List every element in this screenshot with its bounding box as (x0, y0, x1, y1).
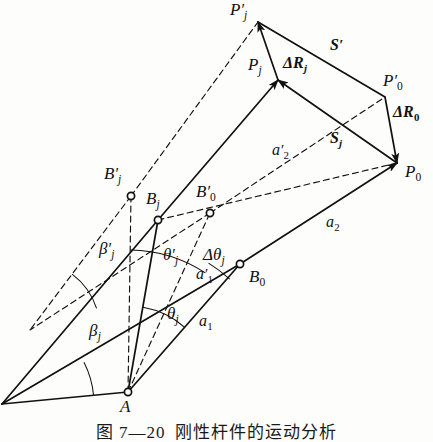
solid-lines-group (2, 22, 397, 404)
point-marker-A (124, 388, 131, 395)
point-marker-B0p (206, 209, 213, 216)
length-label-a2: a2 (326, 214, 340, 232)
segment-A-to-B0 (128, 264, 240, 392)
dashed-segment-a2prime (158, 163, 397, 220)
angle-label-theta-j: θj (167, 305, 179, 325)
figure-container: AB0BjB′jB′0P0P′0PjP′jS′SjΔRjΔR0a1a′1a2a′… (0, 0, 433, 442)
point-markers-group (124, 192, 243, 395)
point-label-B0p: B′0 (196, 183, 216, 203)
point-label-Pj: Pj (248, 56, 262, 76)
segment-A-to-Bj (128, 220, 158, 392)
dashed-lines-group (30, 22, 397, 392)
dashed-segment-B0p-to-P0p (210, 97, 385, 213)
point-label-Pjp: P′j (230, 1, 247, 21)
point-label-P0: P0 (405, 163, 421, 183)
length-label-a2-prime: a′2 (272, 142, 289, 160)
vector-label-dR-j: ΔRj (283, 55, 307, 73)
point-marker-Bj (154, 216, 161, 223)
angle-label-beta-j: βj (89, 322, 101, 342)
point-label-P0p: P′0 (383, 72, 403, 92)
dashed-segment-leftray-Dp (30, 196, 131, 330)
segment-Bj-to-Pj (158, 80, 278, 220)
point-marker-Bjp (127, 192, 134, 199)
vector-label-S-prime: S′ (330, 37, 343, 53)
point-marker-B0 (236, 260, 243, 267)
vector-label-S-j: Sj (330, 130, 342, 148)
point-label-A: A (120, 398, 130, 415)
point-label-B0: B0 (249, 268, 265, 288)
figure-caption: 图 7—20刚性杆件的运动分析 (0, 418, 433, 442)
dashed-segment-A-to-Bjp (128, 196, 131, 392)
segment-leftray-C (2, 220, 158, 404)
segment-leftray-B (2, 264, 240, 404)
caption-number: 图 7—20 (96, 423, 166, 442)
caption-title: 刚性杆件的运动分析 (175, 423, 337, 442)
point-label-Bjp: B′j (104, 165, 121, 185)
length-label-a1-prime: a′1 (196, 266, 213, 284)
arc-beta-j (84, 362, 94, 396)
point-label-Bj: Bj (146, 190, 160, 210)
arc-beta-j-prime (72, 274, 96, 308)
angle-label-theta-j-prime: θ′j (163, 246, 178, 266)
vector-label-dR-0: ΔR0 (393, 104, 419, 122)
length-label-a1: a1 (199, 313, 213, 331)
diagram-canvas (0, 0, 433, 442)
angle-label-beta-j-prime: β′j (99, 240, 114, 260)
dashed-segment-Bjp-to-Pjp (131, 22, 258, 196)
segment-P0-to-Pj (278, 80, 397, 163)
angle-label-delta-theta-j: Δθj (203, 246, 225, 266)
segment-Pjp-to-P0p (258, 22, 385, 97)
